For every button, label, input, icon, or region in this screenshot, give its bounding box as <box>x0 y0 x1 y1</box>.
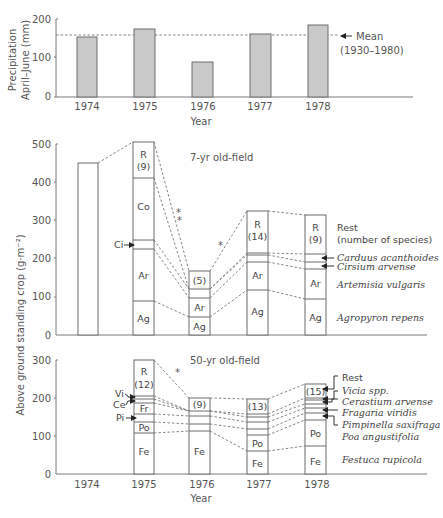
svg-text:Ar: Ar <box>138 270 148 281</box>
y-tick-100: 100 <box>32 431 51 442</box>
legend-pimpinella: Pimpinella saxifraga <box>341 419 441 430</box>
x-tick-1974: 1974 <box>74 479 99 490</box>
standing-crop-y-label: Above ground standing crop (g·m⁻²) <box>15 234 26 415</box>
svg-text:R: R <box>312 222 319 233</box>
bar-1976 <box>192 62 213 97</box>
pi-label: Pi <box>116 412 124 423</box>
significance-star: * <box>175 367 180 378</box>
svg-text:Ar: Ar <box>310 278 320 289</box>
legend-rest: Rest <box>342 372 363 383</box>
legend-rest: Rest <box>337 222 358 233</box>
svg-text:(9): (9) <box>137 161 150 172</box>
legend-agropyron: Agropyron repens <box>336 312 424 323</box>
svg-text:Ag: Ag <box>137 313 150 324</box>
bar-1978 <box>308 25 328 97</box>
svg-text:Po: Po <box>310 428 321 439</box>
legend-festuca: Festuca rupicola <box>341 454 422 465</box>
y-tick-500: 500 <box>32 139 51 150</box>
y-tick-300: 300 <box>32 215 51 226</box>
panel-title: 50-yr old-field <box>190 355 260 366</box>
svg-text:R: R <box>141 366 148 377</box>
svg-text:Co: Co <box>137 201 150 212</box>
svg-text:Ag: Ag <box>251 306 264 317</box>
svg-text:Fr: Fr <box>140 403 149 414</box>
legend-cerastium: Cerastium arvense <box>342 396 433 407</box>
legend-artemisia: Artemisia vulgaris <box>336 279 425 290</box>
svg-text:(9): (9) <box>309 234 322 245</box>
svg-text:Fe: Fe <box>252 458 263 469</box>
bar-1974 <box>77 37 97 97</box>
y-tick-0: 0 <box>45 330 51 341</box>
x-tick-1976: 1976 <box>190 101 215 112</box>
x-tick-1975: 1975 <box>131 479 156 490</box>
panel-title: 7-yr old-field <box>190 152 253 163</box>
mean-period: (1930–1980) <box>340 45 404 56</box>
x-tick-1978: 1978 <box>305 101 330 112</box>
bar-1974 <box>78 163 98 335</box>
ci-label: Ci <box>114 239 123 250</box>
bar-1975 <box>134 29 155 97</box>
svg-text:Ar: Ar <box>252 270 262 281</box>
svg-text:(5): (5) <box>193 275 206 286</box>
legend-rest-sub: (number of species) <box>337 234 432 245</box>
y-axis-label-line2: April–June (mm) <box>20 20 31 100</box>
svg-text:Fe: Fe <box>139 446 150 457</box>
y-tick-400: 400 <box>32 177 51 188</box>
svg-text:R: R <box>140 149 147 160</box>
svg-text:Ar: Ar <box>194 302 204 313</box>
x-tick-1977: 1977 <box>247 101 272 112</box>
y-tick-200: 200 <box>32 393 51 404</box>
svg-text:(9): (9) <box>193 399 206 410</box>
svg-text:R: R <box>254 219 261 230</box>
y-tick-200: 200 <box>32 253 51 264</box>
svg-text:(12): (12) <box>134 379 154 390</box>
svg-text:(13): (13) <box>248 401 268 412</box>
y-tick-100: 100 <box>32 52 51 63</box>
svg-text:Po: Po <box>138 422 149 433</box>
x-axis-label: Year <box>189 116 212 127</box>
svg-text:Fe: Fe <box>194 446 205 457</box>
y-axis-label-line1: Precipitation <box>7 29 18 92</box>
legend-vicia: Vicia spp. <box>342 385 389 396</box>
svg-text:(14): (14) <box>248 231 268 242</box>
y-tick-0: 0 <box>45 469 51 480</box>
svg-text:Fe: Fe <box>310 456 321 467</box>
y-tick-100: 100 <box>32 291 51 302</box>
seven-year-field-chart: 500 400 300 200 100 0 7-yr old-field * *… <box>32 139 439 341</box>
y-tick-300: 300 <box>32 355 51 366</box>
legend-poa: Poa angustifolia <box>341 431 419 442</box>
x-tick-1978: 1978 <box>304 479 329 490</box>
y-tick-200: 200 <box>32 14 51 25</box>
x-tick-1976: 1976 <box>189 479 214 490</box>
figure: Precipitation April–June (mm) 200 100 0 … <box>0 0 443 518</box>
fifty-year-field-chart: 300 200 100 0 50-yr old-field * <box>32 355 441 504</box>
x-tick-1977: 1977 <box>246 479 271 490</box>
vi-label: Vi <box>115 388 124 399</box>
mean-label: Mean <box>356 31 383 42</box>
precipitation-chart: Precipitation April–June (mm) 200 100 0 … <box>7 14 413 127</box>
svg-text:Ag: Ag <box>193 321 206 332</box>
ce-label: Ce <box>113 399 126 410</box>
svg-text:(15): (15) <box>306 386 326 397</box>
legend-cirsium: Cirsium arvense <box>337 261 416 272</box>
svg-text:Ag: Ag <box>309 312 322 323</box>
significance-star: * <box>177 215 182 226</box>
x-tick-1975: 1975 <box>132 101 157 112</box>
x-tick-1974: 1974 <box>74 101 99 112</box>
x-axis-label: Year <box>189 493 212 504</box>
y-tick-0: 0 <box>45 91 51 102</box>
bar-1977 <box>250 34 271 97</box>
legend-fragaria: Fragaria viridis <box>341 407 417 418</box>
svg-text:Po: Po <box>252 438 263 449</box>
significance-star: * <box>218 240 223 251</box>
